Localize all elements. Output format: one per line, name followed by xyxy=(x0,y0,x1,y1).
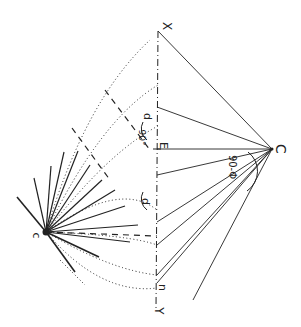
ray-from-C xyxy=(157,149,272,283)
label-n: n xyxy=(157,284,168,291)
dashed-line xyxy=(72,128,110,180)
rays-from-C xyxy=(157,31,272,300)
label-Y: Y xyxy=(153,307,165,314)
label-d-upper: d xyxy=(142,113,153,120)
dotted-arc xyxy=(60,260,85,285)
label-angle-90: 90° xyxy=(137,130,146,146)
label-E: E xyxy=(158,142,169,149)
xy-axis xyxy=(156,31,158,310)
ray-from-C xyxy=(157,149,272,275)
ray-from-c xyxy=(46,225,138,232)
ray-from-c xyxy=(46,190,115,232)
ray-from-C xyxy=(157,149,272,175)
label-C: C xyxy=(274,144,288,154)
dotted-construction-arcs xyxy=(46,40,160,289)
geometric-construction-diagram xyxy=(0,0,301,327)
diagram-canvas: X Y C c E n d d 90° 90-Φ xyxy=(0,0,301,327)
dotted-arc xyxy=(46,40,150,232)
ray-from-c xyxy=(46,232,130,242)
label-d-lower: d xyxy=(140,198,151,205)
ray-from-C xyxy=(158,31,272,149)
ray-from-C xyxy=(157,107,272,149)
ray-from-c xyxy=(46,206,125,232)
label-X: X xyxy=(161,22,173,30)
label-angle-90-phi: 90-Φ xyxy=(227,155,237,179)
ray-from-c xyxy=(46,180,102,232)
label-c: c xyxy=(31,232,42,238)
angle-arcs xyxy=(141,122,257,210)
ray-from-C xyxy=(157,149,272,245)
vertex-c-dot xyxy=(43,229,50,236)
fan-rays-from-c xyxy=(17,151,138,272)
xy-axis-line xyxy=(156,31,158,310)
